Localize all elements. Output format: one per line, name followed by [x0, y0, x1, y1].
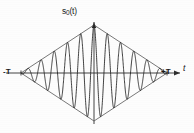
x-tick-label-minus-T: -T	[3, 68, 11, 76]
x-axis-arrow-icon	[174, 71, 180, 76]
signal-argument: (t)	[69, 6, 76, 16]
x-axis-label: t	[183, 64, 185, 73]
y-axis-label: s0(t)	[62, 7, 77, 17]
x-tick-label-plus-T: +T	[161, 68, 171, 76]
signal-waveform-figure: s0(t) -T +T t	[0, 0, 194, 133]
